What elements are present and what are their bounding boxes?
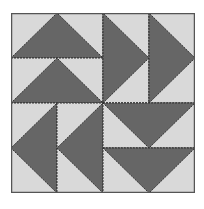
- quilt-block: [11, 13, 195, 193]
- quilt-block-graphic: [11, 13, 195, 193]
